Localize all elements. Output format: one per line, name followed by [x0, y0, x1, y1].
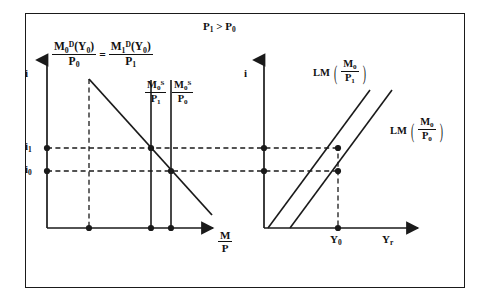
right-x-tick-y0: Y0: [330, 234, 342, 247]
money-demand-equals: =: [99, 50, 106, 62]
left-x-axis-denominator: P: [218, 242, 232, 254]
money-demand-term-2-numerator: M1D(Y0): [109, 41, 153, 55]
left-y-axis-label: i: [25, 68, 28, 79]
money-supply-p0-denominator: P0: [172, 93, 193, 106]
price-condition-left: P1: [203, 20, 213, 32]
lm-p1-name: LM: [313, 68, 330, 79]
lm-p0-fraction: M0 P0: [418, 117, 435, 143]
left-x-axis-numerator: M: [218, 230, 232, 242]
money-demand-term-1: M0D(Y0) P0: [52, 41, 96, 69]
money-supply-p1-numerator: M0S: [145, 80, 166, 93]
money-demand-label: M0D(Y0) P0 = M1D(Y0) P1: [52, 42, 153, 70]
money-demand-term-2-denominator: P1: [109, 55, 153, 69]
price-condition-label: P1 > P0: [203, 21, 236, 34]
dot-left-xaxis-demand-origin: [86, 225, 92, 231]
dot-left-equilibrium-i0: [168, 168, 174, 174]
dot-right-equilibrium-i0: [335, 168, 341, 174]
money-supply-p1-denominator: P1: [145, 93, 166, 106]
money-supply-label-p1: M0S P1: [145, 81, 166, 107]
dot-right-axis-i1: [261, 145, 267, 151]
lm-curve-label-p0: LM ( M0 P0 ): [390, 118, 444, 144]
lm-p0-name: LM: [390, 126, 407, 137]
dot-left-xaxis-supply-p0: [168, 225, 174, 231]
right-x-axis-label-main: Y: [382, 233, 390, 245]
right-x-axis-label: Yr: [382, 234, 393, 247]
left-x-axis-fraction: M P: [218, 230, 232, 254]
money-demand-term-1-numerator: M0D(Y0): [52, 41, 96, 55]
left-x-axis-label: M P: [218, 231, 232, 255]
dot-left-xaxis-supply-p1: [148, 225, 154, 231]
figure-root: P1 > P0 i i1 i0 M0D(Y0) P0 = M1D(Y0) P1 …: [0, 0, 488, 305]
dot-left-equilibrium-i1: [148, 145, 154, 151]
lm-p1-fraction: M0 P1: [341, 59, 358, 85]
money-supply-label-p0: M0S P0: [172, 81, 193, 107]
dot-left-axis-i0: [44, 168, 50, 174]
left-y-tick-i1-sub: 1: [28, 145, 32, 154]
left-y-tick-i0-sub: 0: [28, 168, 32, 177]
left-y-tick-i0: i0: [25, 164, 32, 177]
right-x-tick-y0-main: Y: [330, 233, 338, 245]
lm-p1-paren-close: ): [363, 63, 366, 84]
dot-left-axis-i1: [44, 145, 50, 151]
lm-p0-expression: LM ( M0 P0 ): [390, 118, 444, 144]
money-demand-term-2: M1D(Y0) P1: [109, 41, 153, 69]
lm-p1-numerator: M0: [341, 59, 358, 72]
money-supply-p0-numerator: M0S: [172, 80, 193, 93]
money-demand-term-1-denominator: P0: [52, 55, 96, 69]
money-demand-expression: M0D(Y0) P0 = M1D(Y0) P1: [52, 42, 153, 70]
lm-p1-denominator: P1: [341, 72, 358, 85]
price-condition-right: P0: [225, 20, 235, 32]
lm-p1-paren-open: (: [334, 63, 337, 84]
lm-p0-paren-open: (: [411, 121, 414, 142]
right-x-axis-label-sub: r: [390, 238, 393, 247]
dot-right-axis-i0: [261, 168, 267, 174]
right-y-axis-label: i: [244, 68, 247, 79]
lm-curve-p1: [268, 90, 370, 228]
lm-p0-denominator: P0: [418, 130, 435, 143]
lm-p1-expression: LM ( M0 P1 ): [313, 60, 367, 86]
money-supply-fraction-p1: M0S P1: [145, 80, 166, 106]
lm-p0-numerator: M0: [418, 117, 435, 130]
price-condition-rel: >: [216, 20, 222, 32]
lm-p0-paren-close: ): [440, 121, 443, 142]
right-x-tick-y0-sub: 0: [338, 238, 342, 247]
money-supply-fraction-p0: M0S P0: [172, 80, 193, 106]
lm-curve-label-p1: LM ( M0 P1 ): [313, 60, 367, 86]
dot-right-xaxis-y0: [335, 225, 341, 231]
left-y-tick-i1: i1: [25, 141, 32, 154]
dot-right-equilibrium-i1: [335, 145, 341, 151]
lm-curve-p0: [290, 90, 392, 228]
